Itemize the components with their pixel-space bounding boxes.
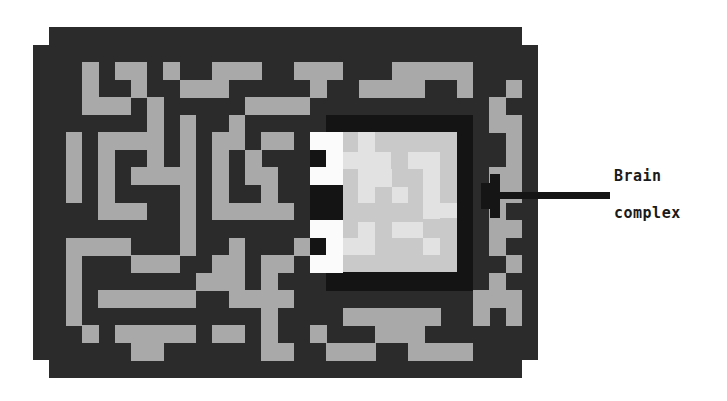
maze-corridor: [180, 150, 197, 168]
maze-corridor: [506, 150, 523, 168]
maze-corridor: [212, 325, 229, 343]
maze-corridor: [261, 203, 278, 221]
maze-corridor: [66, 150, 83, 168]
maze-corridor: [261, 132, 278, 150]
maze-corridor: [229, 203, 246, 221]
brain-bright-cell: [358, 187, 375, 203]
maze-corridor: [489, 97, 506, 115]
maze-corridor: [245, 150, 262, 168]
maze-corridor: [229, 115, 246, 133]
maze-corridor: [457, 80, 474, 98]
maze-corridor: [294, 97, 311, 115]
label-brain: Brain: [614, 167, 662, 185]
maze-corridor: [147, 115, 164, 133]
brain-bright-cell: [423, 203, 457, 218]
maze-corridor: [147, 343, 164, 361]
maze-corridor: [115, 97, 132, 115]
maze-corridor: [506, 308, 523, 326]
maze-wall-edge: [49, 27, 522, 45]
maze-corridor: [310, 62, 327, 80]
maze-corridor: [457, 62, 474, 80]
maze-corridor: [343, 343, 360, 361]
maze-corridor: [408, 343, 425, 361]
maze-corridor: [66, 255, 83, 273]
maze-corridor: [163, 167, 180, 185]
maze-corridor: [212, 255, 229, 273]
maze-corridor: [506, 220, 523, 238]
maze-corridor: [66, 308, 83, 326]
brain-bright-cell: [343, 152, 391, 169]
maze-corridor: [98, 203, 115, 221]
maze-corridor: [261, 273, 278, 291]
maze-corridor: [424, 62, 441, 80]
maze-corridor: [212, 185, 229, 203]
maze-corridor: [212, 167, 229, 185]
maze-corridor: [66, 167, 83, 185]
maze-corridor: [163, 325, 180, 343]
maze-corridor: [294, 62, 311, 80]
brain-white-cell: [326, 132, 343, 150]
maze-corridor: [66, 238, 83, 256]
maze-corridor: [131, 325, 148, 343]
maze-corridor: [506, 290, 523, 308]
maze-corridor: [375, 80, 392, 98]
maze-corridor: [180, 80, 197, 98]
brain-white-cell: [326, 167, 343, 185]
maze-corridor: [131, 203, 148, 221]
maze-corridor: [408, 62, 425, 80]
maze-corridor: [489, 220, 506, 238]
brain-white-cell: [310, 220, 327, 238]
maze-corridor: [375, 308, 392, 326]
brain-white-cell: [326, 238, 343, 256]
maze-corridor: [278, 97, 295, 115]
maze-corridor: [180, 167, 197, 185]
maze-corridor: [375, 325, 392, 343]
maze-corridor: [212, 62, 229, 80]
maze-corridor: [229, 132, 246, 150]
maze-corridor: [82, 62, 99, 80]
maze-corridor: [261, 255, 278, 273]
maze-corridor: [82, 97, 99, 115]
maze-corridor: [441, 343, 458, 361]
maze-corridor: [180, 220, 197, 238]
maze-corridor: [408, 308, 425, 326]
maze-corridor: [147, 150, 164, 168]
maze-corridor: [147, 97, 164, 115]
maze-corridor: [457, 343, 474, 361]
maze-corridor: [310, 325, 327, 343]
maze-corridor: [489, 290, 506, 308]
maze-corridor: [115, 325, 132, 343]
maze-corridor: [310, 80, 327, 98]
maze-corridor: [180, 132, 197, 150]
brain-bright-cell: [392, 187, 408, 203]
brain-bright-cell: [408, 152, 440, 169]
maze-corridor: [98, 97, 115, 115]
maze-corridor: [98, 290, 115, 308]
maze-corridor: [147, 325, 164, 343]
maze-corridor: [66, 185, 83, 203]
brain-white-cell: [310, 132, 327, 150]
maze-corridor: [261, 343, 278, 361]
maze-corridor: [212, 150, 229, 168]
maze-corridor: [506, 115, 523, 133]
maze-corridor: [212, 132, 229, 150]
maze-corridor: [115, 238, 132, 256]
label-complex: complex: [614, 204, 681, 222]
maze-corridor: [392, 325, 409, 343]
maze-corridor: [261, 167, 278, 185]
maze-corridor: [66, 273, 83, 291]
maze-corridor: [261, 97, 278, 115]
maze-corridor: [131, 80, 148, 98]
maze-corridor: [66, 132, 83, 150]
maze-corridor: [489, 238, 506, 256]
maze-corridor: [245, 290, 262, 308]
brain-white-cell: [310, 167, 327, 185]
maze-corridor: [163, 62, 180, 80]
maze-corridor: [229, 325, 246, 343]
maze-corridor: [229, 290, 246, 308]
maze-corridor: [473, 308, 490, 326]
maze-corridor: [392, 80, 409, 98]
brain-bright-cell: [392, 222, 423, 238]
maze-corridor: [392, 308, 409, 326]
maze-corridor: [131, 255, 148, 273]
